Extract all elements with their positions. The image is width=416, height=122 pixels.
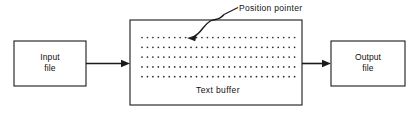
buffer-character-dot <box>261 76 263 78</box>
buffer-character-dot <box>288 37 290 39</box>
buffer-character-dot <box>223 37 225 39</box>
buffer-character-dot <box>185 56 187 58</box>
buffer-character-dot <box>185 76 187 78</box>
buffer-character-dot <box>179 76 181 78</box>
buffer-character-dot <box>228 37 230 39</box>
buffer-character-dot <box>174 46 176 48</box>
buffer-character-dot <box>196 37 198 39</box>
buffer-character-dot <box>147 46 149 48</box>
buffer-character-dot <box>217 37 219 39</box>
buffer-character-dot <box>288 56 290 58</box>
buffer-character-dot <box>283 37 285 39</box>
buffer-character-dot <box>207 76 209 78</box>
position-pointer-label: Position pointer <box>239 3 302 13</box>
buffer-character-dot <box>239 76 241 78</box>
buffer-character-dot <box>212 76 214 78</box>
buffer-character-dot <box>190 37 192 39</box>
buffer-character-dot <box>245 46 247 48</box>
buffer-character-dot <box>147 76 149 78</box>
buffer-character-dot <box>158 56 160 58</box>
buffer-character-dot <box>239 37 241 39</box>
buffer-character-dot <box>163 37 165 39</box>
buffer-character-dot <box>174 76 176 78</box>
buffer-character-dot <box>163 66 165 68</box>
buffer-character-dot <box>152 46 154 48</box>
buffer-character-dot <box>272 66 274 68</box>
buffer-character-dot <box>277 56 279 58</box>
buffer-character-dot <box>234 37 236 39</box>
buffer-character-dot <box>168 37 170 39</box>
buffer-character-dot <box>196 46 198 48</box>
buffer-character-dot <box>245 56 247 58</box>
buffer-character-dot <box>141 37 143 39</box>
buffer-character-dot <box>158 46 160 48</box>
buffer-character-dot <box>267 76 269 78</box>
buffer-character-dot <box>239 66 241 68</box>
buffer-character-dot <box>158 37 160 39</box>
buffer-character-dot <box>163 46 165 48</box>
buffer-character-dot <box>283 56 285 58</box>
buffer-character-dot <box>158 66 160 68</box>
buffer-character-dot <box>201 37 203 39</box>
buffer-character-dot <box>147 37 149 39</box>
buffer-character-dot <box>234 46 236 48</box>
buffer-character-dot <box>272 56 274 58</box>
buffer-character-dot <box>294 56 296 58</box>
buffer-character-dot <box>168 76 170 78</box>
buffer-character-dot <box>283 66 285 68</box>
text-buffer-label: Text buffer <box>168 85 268 96</box>
buffer-character-dot <box>141 46 143 48</box>
buffer-character-dot <box>207 37 209 39</box>
buffer-character-dot <box>163 56 165 58</box>
buffer-character-dot <box>294 37 296 39</box>
buffer-character-dot <box>294 76 296 78</box>
buffer-character-dot <box>283 76 285 78</box>
buffer-character-dot <box>147 56 149 58</box>
buffer-character-dot <box>223 66 225 68</box>
buffer-character-dot <box>152 76 154 78</box>
buffer-character-dot <box>168 66 170 68</box>
buffer-character-dot <box>250 37 252 39</box>
buffer-character-dot <box>196 66 198 68</box>
output-file-label: Output file <box>331 52 405 73</box>
buffer-character-dot <box>201 46 203 48</box>
buffer-character-dot <box>201 76 203 78</box>
buffer-character-dot <box>294 66 296 68</box>
buffer-character-dot <box>223 56 225 58</box>
buffer-character-dot <box>288 46 290 48</box>
buffer-character-dot <box>239 46 241 48</box>
buffer-character-dot <box>277 37 279 39</box>
buffer-character-dot <box>267 37 269 39</box>
buffer-character-dot <box>283 46 285 48</box>
buffer-character-dot <box>272 37 274 39</box>
input-to-buffer-arrow <box>86 60 130 67</box>
buffer-character-dot <box>250 76 252 78</box>
buffer-character-dot <box>277 46 279 48</box>
buffer-character-dot <box>201 56 203 58</box>
buffer-character-dot <box>174 66 176 68</box>
buffer-character-dot <box>141 76 143 78</box>
buffer-character-dot <box>207 56 209 58</box>
buffer-character-dot <box>141 56 143 58</box>
buffer-character-dot <box>234 66 236 68</box>
buffer-character-dot <box>174 56 176 58</box>
buffer-character-dot <box>277 66 279 68</box>
buffer-character-dot <box>256 56 258 58</box>
buffer-character-dot <box>288 76 290 78</box>
buffer-character-dot <box>223 46 225 48</box>
buffer-character-dot <box>168 56 170 58</box>
buffer-character-dot <box>212 46 214 48</box>
buffer-character-dot <box>179 46 181 48</box>
buffer-character-dot <box>272 76 274 78</box>
buffer-character-dot <box>196 56 198 58</box>
buffer-character-dot <box>267 46 269 48</box>
buffer-character-dot <box>256 37 258 39</box>
buffer-character-dot <box>207 66 209 68</box>
buffer-character-dot <box>245 76 247 78</box>
buffer-character-dot <box>245 66 247 68</box>
buffer-character-dot <box>223 76 225 78</box>
buffer-character-dot <box>294 46 296 48</box>
buffer-character-dot <box>228 76 230 78</box>
buffer-character-dot <box>152 66 154 68</box>
buffer-character-dot <box>174 37 176 39</box>
